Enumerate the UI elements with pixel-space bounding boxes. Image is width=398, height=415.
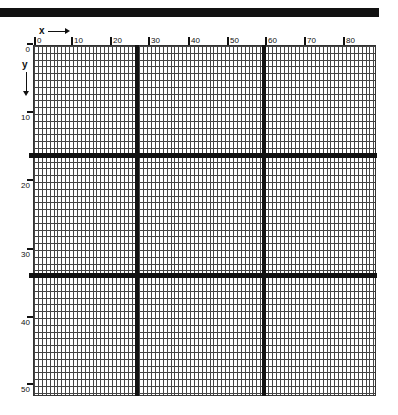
x-tick: 0 xyxy=(37,37,41,45)
x-arrow-icon xyxy=(48,31,66,32)
y-tick: 40 xyxy=(0,319,30,327)
x-tick: 40 xyxy=(191,37,200,45)
x-tick: 30 xyxy=(151,37,160,45)
y-tick: 0 xyxy=(0,46,30,54)
y-tick: 10 xyxy=(0,114,30,122)
horizontal-divider xyxy=(29,273,377,278)
x-tick: 60 xyxy=(268,37,277,45)
y-arrow-icon xyxy=(26,72,27,92)
vertical-divider xyxy=(135,45,139,396)
y-tick: 30 xyxy=(0,251,30,259)
x-tick: 80 xyxy=(346,37,355,45)
x-tick: 50 xyxy=(230,37,239,45)
y-axis-label: y xyxy=(22,59,28,70)
top-rule xyxy=(0,8,379,17)
x-tick: 10 xyxy=(74,37,83,45)
x-tick: 20 xyxy=(113,37,122,45)
y-tick: 20 xyxy=(0,182,30,190)
y-tick: 50 xyxy=(0,386,30,394)
graph-grid xyxy=(33,45,376,396)
x-axis-label: x xyxy=(39,25,45,36)
x-tick: 70 xyxy=(307,37,316,45)
vertical-divider xyxy=(262,45,266,396)
horizontal-divider xyxy=(29,153,377,158)
